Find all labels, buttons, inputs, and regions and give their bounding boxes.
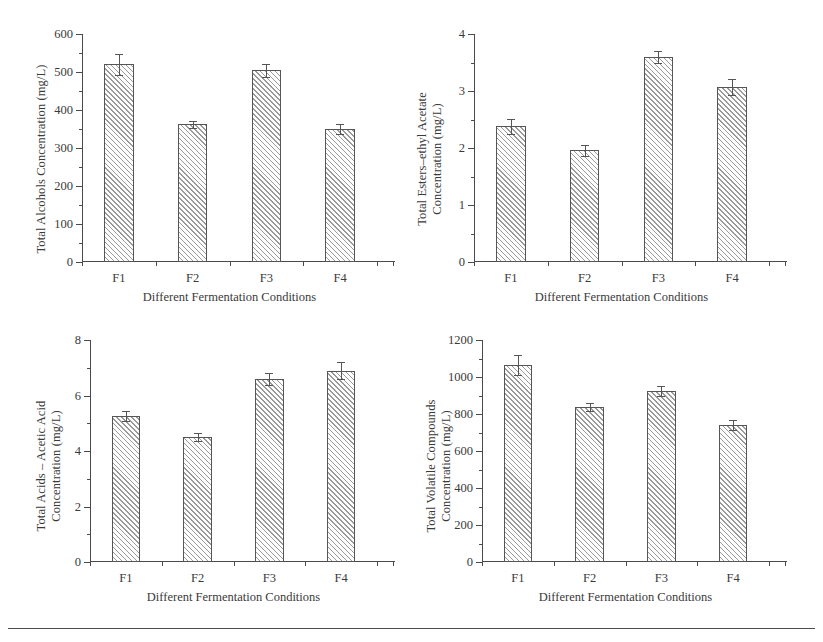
y-axis-minor-tick [79,129,83,130]
x-axis-category-label: F4 [334,271,347,286]
y-axis-tick [76,34,82,35]
y-axis-minor-tick [79,91,83,92]
error-bar-cap [581,156,589,157]
error-bar-cap [336,124,344,125]
x-axis-title: Different Fermentation Conditions [147,590,320,605]
y-axis-label: Total Acids – Acetic AcidConcentration (… [34,344,64,588]
y-axis-minor-tick [479,507,483,508]
x-axis-tick [548,262,549,266]
x-axis-tick [162,562,163,566]
panel-top-left: Total Alcohols Concentration (mg/L)01002… [0,0,411,310]
bar [647,391,676,562]
y-axis-label-line: Total Volatile Compounds [424,344,439,588]
error-bar-cap [728,79,736,80]
error-bar-cap [189,128,197,129]
y-axis-tick [76,186,82,187]
x-axis-tick [393,262,394,266]
y-axis-tick-label: 400 [54,104,73,117]
x-axis-tick [785,262,786,266]
y-axis-tick-label: 1000 [448,371,473,384]
y-axis-tick [468,148,474,149]
y-axis-tick [76,148,82,149]
error-bar [511,119,512,134]
x-axis-tick [303,262,304,266]
x-axis-category-label: F4 [727,571,740,586]
error-bar-cap [115,75,123,76]
y-axis-tick-label: 200 [54,180,73,193]
panel-top-right: Total Esters–ethyl AcetateConcentration … [411,0,823,310]
y-axis-tick [76,72,82,73]
x-axis-category-label: F1 [112,271,125,286]
footer-divider-rule [8,628,815,629]
error-bar [733,420,734,429]
y-axis-minor-tick [479,359,483,360]
error-bar [269,373,270,385]
x-axis-title: Different Fermentation Conditions [539,590,712,605]
y-axis-tick [476,414,482,415]
error-bar-cap [514,375,522,376]
x-axis-title: Different Fermentation Conditions [143,290,316,305]
y-axis-minor-tick [79,243,83,244]
x-axis-category-label: F4 [335,571,348,586]
bar [719,425,748,562]
x-axis-category-label: F1 [119,571,132,586]
bar [112,416,141,562]
y-axis-minor-tick [471,177,475,178]
error-bar [340,124,341,134]
y-axis-minor-tick [471,63,475,64]
x-axis-category-label: F1 [504,271,517,286]
x-axis-category-label: F3 [655,571,668,586]
error-bar-cap [337,362,345,363]
x-axis-title: Different Fermentation Conditions [535,290,708,305]
y-axis-minor-tick [479,396,483,397]
error-bar-cap [514,355,522,356]
y-axis-minor-tick [79,53,83,54]
error-bar-cap [729,420,737,421]
x-axis-tick [234,562,235,566]
error-bar-cap [728,95,736,96]
error-bar-cap [654,63,662,64]
y-axis-minor-tick [471,234,475,235]
error-bar-cap [586,403,594,404]
y-axis-tick-label: 1200 [448,334,473,347]
x-axis-tick [474,262,475,266]
y-axis-tick-label: 0 [467,556,473,569]
x-axis-tick [695,262,696,266]
y-axis-tick-label: 500 [54,66,73,79]
y-axis-minor-tick [479,544,483,545]
y-axis-tick-label: 4 [75,445,81,458]
error-bar [119,54,120,75]
y-axis-tick-label: 800 [454,408,473,421]
panel-bottom-right: Total Volatile CompoundsConcentration (m… [411,310,823,620]
bar [644,57,674,262]
x-axis-tick [82,262,83,266]
x-axis-tick [697,562,698,566]
y-axis-tick-label: 600 [454,445,473,458]
y-axis-minor-tick [471,120,475,121]
x-axis-tick [393,562,394,566]
error-bar [266,64,267,76]
bar [104,64,134,262]
error-bar-cap [115,54,123,55]
y-axis-tick [476,488,482,489]
error-bar-cap [581,145,589,146]
panel-bottom-left: Total Acids – Acetic AcidConcentration (… [0,310,411,620]
error-bar-cap [657,396,665,397]
x-axis-category-label: F2 [578,271,591,286]
error-bar-cap [729,430,737,431]
x-axis-tick [90,562,91,566]
y-axis-tick-label: 0 [459,256,465,269]
plot-area: 01234F1F2F3F4Different Fermentation Cond… [474,34,769,262]
y-axis-tick-label: 300 [54,142,73,155]
y-axis-minor-tick [479,433,483,434]
x-axis-tick [785,562,786,566]
x-axis-category-label: F2 [191,571,204,586]
x-axis-category-label: F3 [263,571,276,586]
bar [252,70,282,262]
y-axis-minor-tick [87,423,91,424]
bar [504,365,533,562]
y-axis-tick-label: 100 [54,218,73,231]
error-bar-cap [194,441,202,442]
y-axis-minor-tick [87,479,91,480]
error-bar-cap [657,386,665,387]
